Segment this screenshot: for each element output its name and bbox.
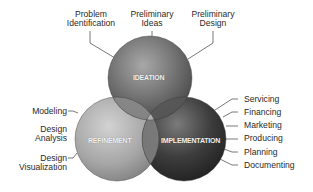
- label-producing: Producing: [244, 134, 283, 143]
- label-modeling: Modeling: [10, 107, 67, 116]
- label-preliminary-design: Preliminary Design: [186, 10, 240, 29]
- label-problem-identification: Problem Identification: [64, 10, 118, 29]
- label-design-analysis: Design Analysis: [10, 125, 67, 144]
- label-preliminary-ideas: Preliminary Ideas: [125, 10, 179, 29]
- label-marketing: Marketing: [244, 121, 282, 130]
- label-design-visualization: Design Visualization: [5, 154, 67, 173]
- label-documenting: Documenting: [244, 161, 295, 170]
- ideation-title: IDEATION: [133, 74, 164, 81]
- label-financing: Financing: [244, 108, 281, 117]
- refinement-title: REFINEMENT: [88, 137, 132, 144]
- implementation-title: IMPLEMENTATION: [161, 137, 220, 144]
- venn-diagram: IDEATION REFINEMENT IMPLEMENTATION Probl…: [0, 0, 313, 192]
- label-planning: Planning: [244, 148, 277, 157]
- label-servicing: Servicing: [244, 95, 279, 104]
